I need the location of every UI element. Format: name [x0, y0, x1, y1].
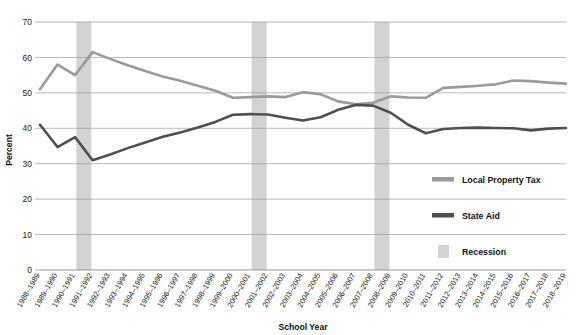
series-line — [40, 105, 566, 160]
y-axis-tick-label: 0 — [27, 265, 32, 275]
recession-bands-group — [76, 22, 389, 270]
y-axis-tick-label: 50 — [23, 88, 33, 98]
chart-container: 010203040506070 1988–19891989–19901990–1… — [0, 0, 584, 335]
y-axis-tick-label: 30 — [23, 159, 33, 169]
recession-band — [252, 22, 267, 270]
legend-line-swatch — [432, 177, 454, 182]
legend-item-label: Recession — [462, 247, 506, 257]
legend-item-label: State Aid — [462, 211, 500, 221]
recession-band — [76, 22, 91, 270]
chart-legend: Local Property TaxState AidRecession — [432, 175, 541, 258]
legend-item-label: Local Property Tax — [462, 175, 541, 185]
legend-band-swatch — [438, 245, 449, 258]
series-line — [40, 52, 566, 104]
legend-line-swatch — [432, 213, 454, 218]
recession-band — [374, 22, 389, 270]
series-lines-group — [40, 52, 566, 160]
line-chart: 010203040506070 1988–19891989–19901990–1… — [0, 0, 584, 335]
y-axis-tick-label: 40 — [23, 123, 33, 133]
y-axis-title: Percent — [4, 134, 14, 166]
x-axis-title: School Year — [278, 322, 328, 332]
y-axis-tick-labels: 010203040506070 — [23, 17, 33, 275]
y-axis-tick-label: 70 — [23, 17, 33, 27]
x-axis-tick-labels: 1988–19891989–19901990–19911991–19921992… — [15, 272, 568, 309]
y-axis-tick-label: 20 — [23, 194, 33, 204]
y-axis-tick-label: 60 — [23, 53, 33, 63]
y-axis-tick-label: 10 — [23, 230, 33, 240]
